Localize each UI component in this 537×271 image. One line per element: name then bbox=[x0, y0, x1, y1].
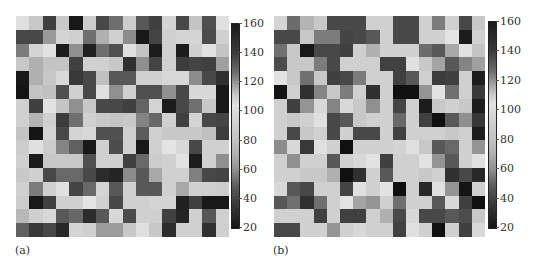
heatmap-cell bbox=[96, 85, 109, 99]
heatmap-cell bbox=[274, 99, 287, 113]
heatmap-cell bbox=[472, 85, 485, 99]
heatmap-cell bbox=[445, 209, 458, 223]
heatmap-cell bbox=[202, 196, 215, 210]
heatmap-cell bbox=[314, 44, 327, 58]
colorbar-tick-mark bbox=[239, 198, 242, 199]
heatmap-cell bbox=[445, 168, 458, 182]
heatmap-cell bbox=[432, 223, 445, 237]
heatmap-cell bbox=[340, 44, 353, 58]
heatmap-cell bbox=[202, 209, 215, 223]
heatmap-cell bbox=[380, 223, 393, 237]
heatmap-cell bbox=[406, 16, 419, 30]
heatmap-cell bbox=[406, 71, 419, 85]
heatmap-cell bbox=[43, 85, 56, 99]
heatmap-cell bbox=[176, 30, 189, 44]
heatmap-cell bbox=[69, 154, 82, 168]
heatmap-cell bbox=[340, 113, 353, 127]
heatmap-cell bbox=[96, 44, 109, 58]
heatmap-cell bbox=[162, 154, 175, 168]
heatmap-cell bbox=[459, 57, 472, 71]
heatmap-cell bbox=[445, 30, 458, 44]
heatmap-cell bbox=[445, 44, 458, 58]
heatmap-cell bbox=[274, 30, 287, 44]
heatmap-cell bbox=[43, 16, 56, 30]
heatmap-cell bbox=[406, 223, 419, 237]
panel-label-b: (b) bbox=[273, 244, 289, 257]
heatmap-cell bbox=[123, 196, 136, 210]
heatmap-cell bbox=[176, 154, 189, 168]
heatmap-cell bbox=[472, 154, 485, 168]
heatmap-cell bbox=[149, 113, 162, 127]
heatmap-cell bbox=[274, 209, 287, 223]
heatmap-cell bbox=[327, 182, 340, 196]
heatmap-cell bbox=[445, 71, 458, 85]
heatmap-cell bbox=[380, 182, 393, 196]
heatmap-cell bbox=[432, 99, 445, 113]
heatmap-cell bbox=[419, 223, 432, 237]
heatmap-cell bbox=[109, 71, 122, 85]
heatmap-cell bbox=[472, 99, 485, 113]
heatmap-cell bbox=[123, 16, 136, 30]
heatmap-cell bbox=[176, 140, 189, 154]
heatmap-cell bbox=[406, 182, 419, 196]
heatmap-cell bbox=[43, 44, 56, 58]
colorbar-tick-mark bbox=[496, 198, 499, 199]
heatmap-cell bbox=[393, 113, 406, 127]
heatmap-cell bbox=[300, 209, 313, 223]
heatmap-cell bbox=[136, 113, 149, 127]
heatmap-cell bbox=[56, 71, 69, 85]
heatmap-cell bbox=[69, 196, 82, 210]
heatmap-cell bbox=[314, 196, 327, 210]
heatmap-cell bbox=[287, 223, 300, 237]
heatmap-cell bbox=[16, 16, 29, 30]
heatmap-cell bbox=[393, 223, 406, 237]
heatmap-cell bbox=[189, 154, 202, 168]
heatmap-cell bbox=[459, 30, 472, 44]
heatmap-cell bbox=[445, 154, 458, 168]
heatmap-cell bbox=[366, 182, 379, 196]
heatmap-cell bbox=[43, 113, 56, 127]
heatmap-cell bbox=[189, 57, 202, 71]
heatmap-cell bbox=[314, 154, 327, 168]
heatmap-cell bbox=[202, 127, 215, 141]
heatmap-cell bbox=[176, 16, 189, 30]
heatmap-cell bbox=[340, 16, 353, 30]
heatmap-cell bbox=[202, 57, 215, 71]
heatmap-cell bbox=[176, 127, 189, 141]
heatmap-cell bbox=[109, 140, 122, 154]
heatmap-cell bbox=[109, 16, 122, 30]
heatmap-cell bbox=[176, 209, 189, 223]
heatmap-cell bbox=[419, 182, 432, 196]
heatmap-cell bbox=[445, 127, 458, 141]
heatmap-cell bbox=[459, 44, 472, 58]
heatmap-cell bbox=[287, 127, 300, 141]
heatmap-cell bbox=[472, 30, 485, 44]
heatmap-cell bbox=[176, 113, 189, 127]
heatmap-cell bbox=[445, 57, 458, 71]
heatmap-cell bbox=[123, 140, 136, 154]
heatmap-cell bbox=[366, 30, 379, 44]
heatmap-cell bbox=[432, 154, 445, 168]
heatmap-cell bbox=[327, 223, 340, 237]
heatmap-cell bbox=[202, 16, 215, 30]
heatmap-cell bbox=[96, 168, 109, 182]
heatmap-cell bbox=[380, 140, 393, 154]
heatmap-cell bbox=[16, 99, 29, 113]
heatmap-cell bbox=[287, 140, 300, 154]
heatmap-cell bbox=[353, 127, 366, 141]
heatmap-cell bbox=[287, 85, 300, 99]
heatmap-cell bbox=[176, 57, 189, 71]
heatmap-cell bbox=[393, 209, 406, 223]
heatmap-cell bbox=[29, 85, 42, 99]
heatmap-cell bbox=[300, 44, 313, 58]
heatmap-cell bbox=[314, 30, 327, 44]
heatmap-cell bbox=[406, 113, 419, 127]
heatmap-cell bbox=[287, 71, 300, 85]
heatmap-cell bbox=[29, 57, 42, 71]
heatmap-cell bbox=[406, 99, 419, 113]
heatmap-cell bbox=[16, 182, 29, 196]
heatmap-cell bbox=[29, 99, 42, 113]
heatmap-cell bbox=[56, 182, 69, 196]
heatmap-cell bbox=[380, 57, 393, 71]
colorbar-tick-mark bbox=[496, 80, 499, 81]
